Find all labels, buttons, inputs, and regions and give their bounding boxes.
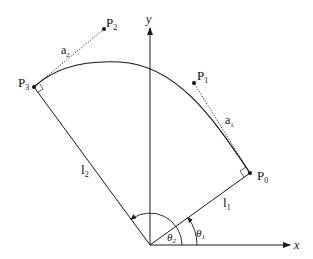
- label-l1: l1: [223, 195, 231, 212]
- y-axis-label: y: [145, 12, 152, 26]
- diagram-canvas: x y P0 P1 P2 P3 a1 a2 l1 l2 θ1 θ2: [0, 0, 313, 259]
- bezier-curve: [34, 62, 250, 173]
- label-theta1: θ1: [196, 227, 205, 241]
- label-p3: P3: [18, 75, 29, 92]
- point-p3-dot: [32, 85, 36, 89]
- label-theta2: θ2: [167, 231, 176, 245]
- label-a2: a2: [61, 43, 70, 59]
- right-angle-mark-p3: [38, 84, 43, 92]
- label-p2: P2: [106, 15, 117, 32]
- x-axis-label: x: [293, 238, 300, 252]
- label-p1: P1: [197, 68, 208, 85]
- point-p0-dot: [248, 171, 252, 175]
- link-l2: [34, 87, 150, 245]
- right-angle-mark-p0: [240, 167, 246, 177]
- point-p1-dot: [192, 81, 196, 85]
- label-a1: a1: [225, 113, 234, 129]
- kinematic-diagram: x y P0 P1 P2 P3 a1 a2 l1 l2 θ1 θ2: [0, 0, 313, 259]
- label-p0: P0: [257, 168, 268, 185]
- tangent-a1: [194, 83, 250, 173]
- label-l2: l2: [81, 162, 89, 179]
